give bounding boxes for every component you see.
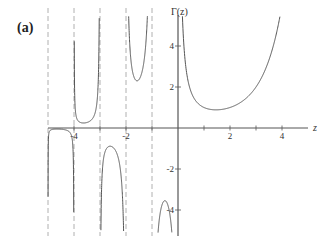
y-tick-label: -2 [167, 164, 175, 174]
x-axis-label: z [312, 122, 317, 133]
gamma-curve-branch [182, 16, 280, 110]
y-tick-label: 2 [170, 82, 175, 92]
gamma-curve [48, 16, 280, 232]
gamma-curve-branch [48, 129, 74, 212]
x-tick-label: 4 [280, 131, 285, 141]
x-tick-label: -2 [122, 131, 130, 141]
asymptote-lines [48, 8, 152, 236]
y-tick-label: 4 [170, 41, 175, 51]
y-axis-label: Γ(z) [171, 6, 188, 18]
gamma-curve-branch [129, 16, 148, 81]
gamma-function-chart: -4-224 42-2-4 z Γ(z) [0, 0, 329, 241]
x-tick-label: 2 [228, 131, 233, 141]
y-tick-label: -4 [167, 205, 175, 215]
axes: -4-224 42-2-4 z Γ(z) [48, 6, 317, 236]
gamma-curve-branch [74, 18, 99, 123]
gamma-curve-branch [101, 146, 124, 231]
